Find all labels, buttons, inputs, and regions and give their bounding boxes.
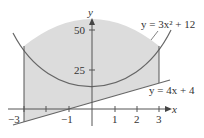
parabola-label: y = 3x² + 12 [141,18,195,30]
line-label: y = 4x + 4 [149,84,195,96]
y-axis-label: y [87,6,93,18]
x-axis-label: x [171,103,177,115]
y-tick-label: 50 [74,24,86,36]
x-tick-label: 2 [134,113,140,125]
x-axis-arrow-icon [165,106,172,112]
x-tick-label: 3 [156,113,162,125]
area-between-curves-chart: −3 −1 1 2 3 50 25 x y y = 3x² + 12 y = 4… [0,0,204,138]
chart-container: −3 −1 1 2 3 50 25 x y y = 3x² + 12 y = 4… [0,0,204,138]
x-tick-label: 1 [112,113,118,125]
y-tick-label: 25 [74,64,86,76]
x-tick-label: −3 [8,113,20,125]
parabola-pointer [151,31,158,40]
x-tick-label: −1 [61,113,73,125]
